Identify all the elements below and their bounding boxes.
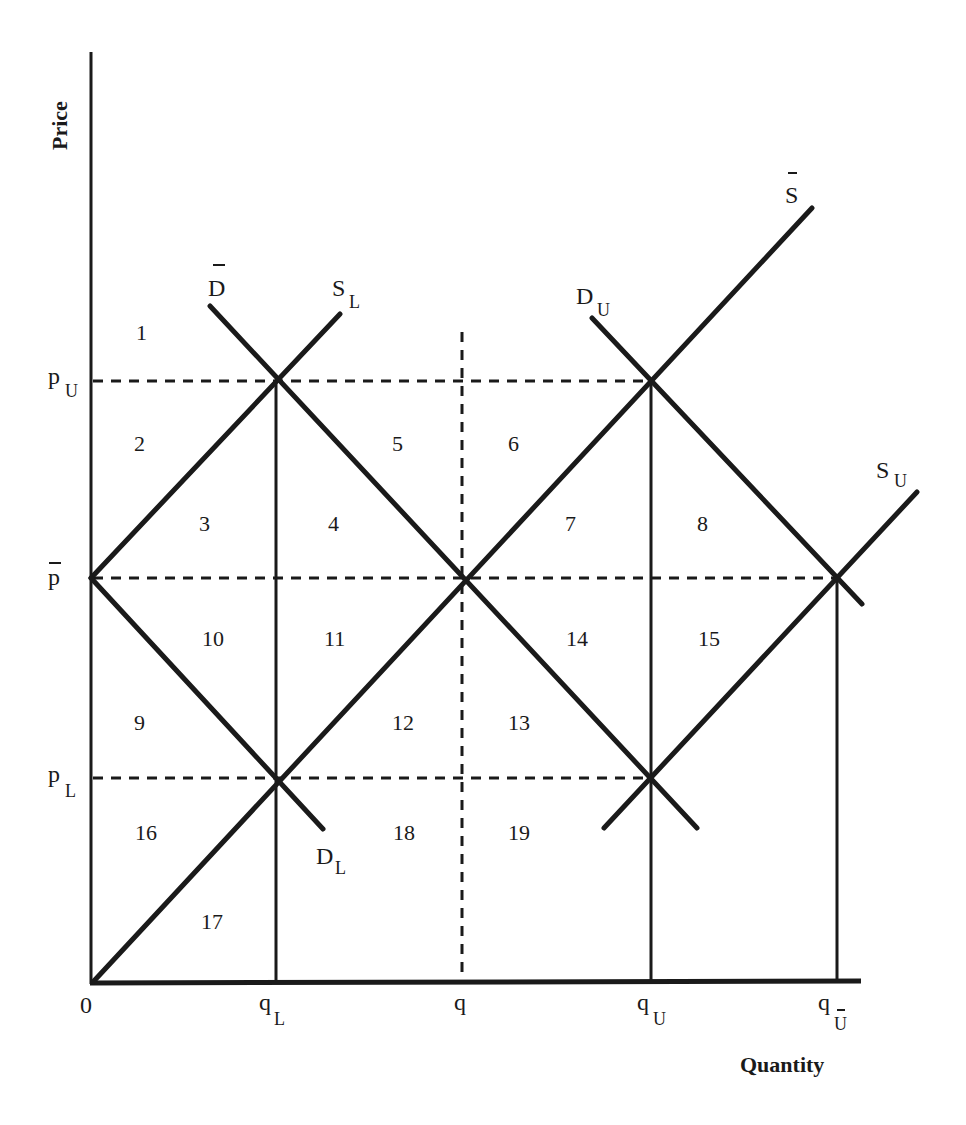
svg-text:L: L bbox=[65, 781, 76, 801]
region-5: 5 bbox=[392, 431, 403, 456]
svg-text:L: L bbox=[335, 858, 346, 878]
label-S-U: S U bbox=[876, 457, 907, 491]
svg-text:U: U bbox=[597, 300, 610, 320]
y-tick-pL: p L bbox=[48, 761, 76, 801]
svg-text:q: q bbox=[637, 989, 649, 1015]
svg-text:U: U bbox=[65, 381, 78, 401]
svg-text:U: U bbox=[894, 471, 907, 491]
x-axis-title: Quantity bbox=[740, 1052, 824, 1077]
svg-text:U: U bbox=[834, 1014, 847, 1034]
region-18: 18 bbox=[393, 820, 415, 845]
curve-S-bar bbox=[93, 208, 812, 982]
x-tick-qL: q L bbox=[259, 989, 285, 1029]
region-8: 8 bbox=[697, 511, 708, 536]
svg-text:S: S bbox=[332, 275, 345, 301]
region-14: 14 bbox=[566, 626, 588, 651]
curve-D-U bbox=[592, 318, 862, 604]
region-1: 1 bbox=[136, 320, 147, 345]
svg-text:D: D bbox=[208, 275, 225, 301]
svg-text:q: q bbox=[454, 989, 466, 1015]
svg-text:S: S bbox=[785, 182, 798, 208]
region-3: 3 bbox=[199, 511, 210, 536]
label-D-U: D U bbox=[576, 283, 610, 320]
svg-text:S: S bbox=[876, 457, 889, 483]
region-4: 4 bbox=[328, 511, 339, 536]
region-19: 19 bbox=[508, 820, 530, 845]
x-tick-qU: q U bbox=[637, 989, 666, 1029]
region-9: 9 bbox=[134, 710, 145, 735]
region-10: 10 bbox=[202, 626, 224, 651]
label-D-L: D L bbox=[316, 843, 346, 878]
svg-text:q: q bbox=[818, 989, 830, 1015]
svg-text:L: L bbox=[349, 292, 360, 312]
svg-text:U: U bbox=[653, 1009, 666, 1029]
region-16: 16 bbox=[135, 820, 157, 845]
x-axis bbox=[90, 981, 861, 983]
svg-text:p: p bbox=[48, 564, 60, 590]
region-15: 15 bbox=[698, 626, 720, 651]
svg-text:D: D bbox=[576, 283, 593, 309]
origin-label: 0 bbox=[80, 992, 92, 1018]
curve-D-bar bbox=[210, 306, 697, 828]
svg-text:p: p bbox=[48, 363, 60, 389]
x-tick-q: q bbox=[454, 989, 466, 1015]
region-2: 2 bbox=[134, 431, 145, 456]
svg-text:p: p bbox=[48, 761, 60, 787]
label-S-L: S L bbox=[332, 275, 360, 312]
svg-text:L: L bbox=[274, 1009, 285, 1029]
y-tick-pU: p U bbox=[48, 363, 78, 401]
region-11: 11 bbox=[324, 626, 345, 651]
region-12: 12 bbox=[392, 710, 414, 735]
region-7: 7 bbox=[565, 511, 576, 536]
region-13: 13 bbox=[508, 710, 530, 735]
supply-demand-diagram: Price Quantity 0 p U p p L q L q q U q U… bbox=[0, 0, 966, 1125]
curve-D-L bbox=[91, 578, 323, 829]
x-tick-qUbar: q U bbox=[818, 989, 847, 1034]
label-D-bar: D bbox=[208, 265, 225, 301]
curve-S-L bbox=[91, 314, 340, 578]
y-tick-pbar: p bbox=[48, 563, 61, 590]
label-S-bar: S bbox=[785, 173, 798, 208]
svg-text:D: D bbox=[316, 843, 333, 869]
svg-text:q: q bbox=[259, 989, 271, 1015]
region-17: 17 bbox=[201, 909, 223, 934]
y-axis-title: Price bbox=[47, 101, 72, 150]
region-6: 6 bbox=[508, 431, 519, 456]
